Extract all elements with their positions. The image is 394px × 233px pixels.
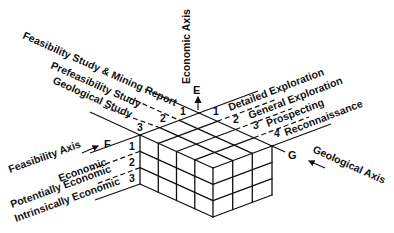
economic-level-1-num: 1 (129, 140, 135, 152)
feasibility-level-1-num: 1 (180, 105, 186, 117)
geological-levels: 1 Detailed Exploration 2 General Explora… (213, 65, 364, 139)
feasibility-level-2-num: 2 (160, 112, 166, 124)
economic-axis-letter: E (193, 84, 200, 96)
geological-level-2-num: 2 (233, 113, 239, 125)
feasibility-axis-letter: F (104, 138, 111, 150)
geological-level-3-num: 3 (253, 119, 259, 131)
economic-level-3-num: 3 (129, 172, 135, 184)
economic-axis-title: Economic Axis (180, 9, 192, 84)
economic-level-2-num: 2 (129, 156, 135, 168)
geological-axis: G Geological Axis (272, 143, 388, 186)
geological-axis-letter: G (288, 149, 297, 161)
feasibility-level-3-num: 3 (137, 121, 143, 133)
economic-axis: E Economic Axis (180, 9, 200, 110)
unfc-cube-diagram: E Economic Axis Feasibility Axis F G Geo… (0, 0, 394, 233)
geological-level-1-num: 1 (213, 105, 219, 117)
geological-axis-title: Geological Axis (311, 143, 388, 186)
geological-level-4-num: 4 (274, 127, 280, 139)
feasibility-levels: Feasibility Study & Mining Report 1 Pref… (21, 29, 186, 133)
